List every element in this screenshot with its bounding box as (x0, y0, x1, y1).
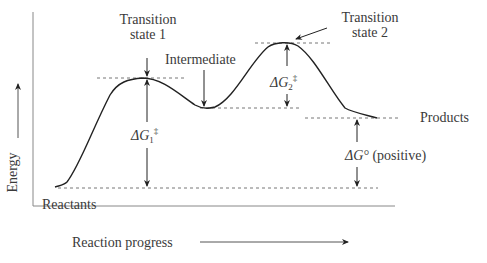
ts1-label: Transition state 1 (108, 12, 188, 42)
dg1-sup: ‡ (154, 126, 159, 136)
dg1-symbol: ΔG (131, 128, 149, 143)
ts1-label-line1: Transition (108, 12, 188, 27)
dg0-note: (positive) (372, 148, 426, 163)
reactants-label: Reactants (42, 197, 96, 212)
ts1-label-line2: state 1 (108, 27, 188, 42)
dg2-sup: ‡ (293, 73, 298, 83)
dg0-symbol: ΔG° (345, 148, 369, 163)
dg2-symbol: ΔG (270, 75, 288, 90)
dg1-sub: 1 (149, 135, 154, 145)
dg2-sub: 2 (288, 82, 293, 92)
products-label: Products (420, 110, 469, 125)
ts2-label: Transition state 2 (330, 10, 410, 40)
x-axis-label: Reaction progress (72, 235, 173, 250)
dg1-label: ΔG1‡ (131, 124, 158, 148)
ts2-label-line2: state 2 (330, 25, 410, 40)
intermediate-label: Intermediate (165, 52, 236, 67)
y-axis-label: Energy (5, 152, 20, 192)
dg0-label: ΔG° (positive) (345, 148, 426, 163)
ts2-label-line1: Transition (330, 10, 410, 25)
energy-diagram (0, 0, 487, 263)
dg2-label: ΔG2‡ (270, 71, 297, 95)
